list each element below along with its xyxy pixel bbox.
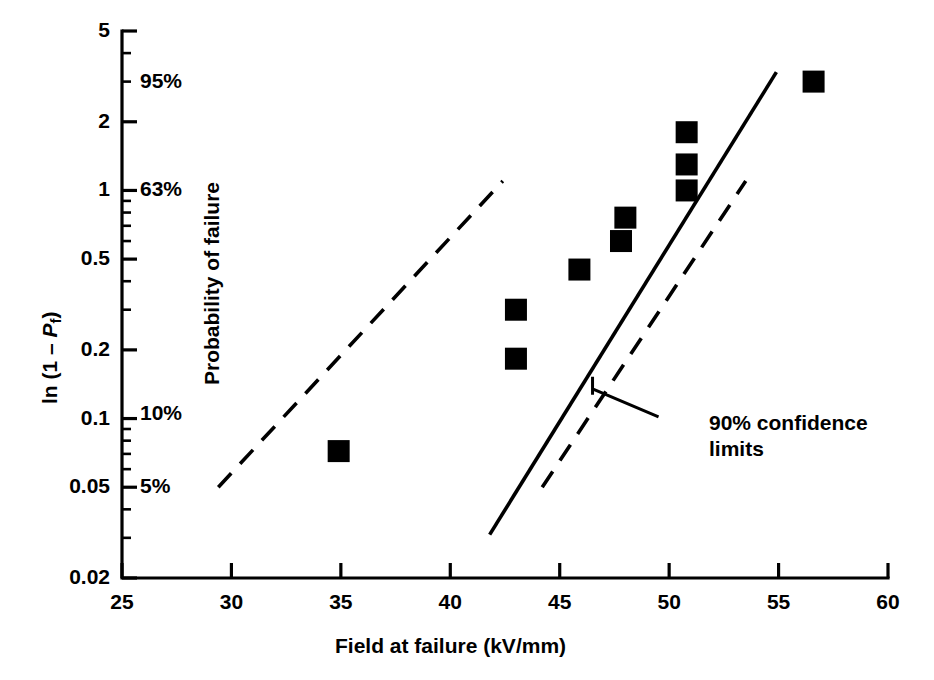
x-axis-title: Field at failure (kV/mm) [335,634,566,658]
x-axis-tick-label: 35 [306,590,376,614]
best-fit-line [490,72,777,534]
data-point-marker [610,230,632,252]
data-point-marker [505,348,527,370]
y-axis-tick-label: 0.05 [0,474,110,498]
y-axis-tick-label: 2 [0,109,110,133]
probability-percent-label: 95% [140,69,182,93]
y-axis-tick-label: 1 [0,177,110,201]
confidence-limits-line2: limits [709,436,868,462]
data-point-marker [328,440,350,462]
x-axis-tick-label: 30 [196,590,266,614]
data-point-marker [676,179,698,201]
y-axis-tick-label: 0.02 [0,565,110,589]
y-axis-title: ln (1 – Pf) [38,311,64,404]
y-axis-tick-label: 0.1 [0,406,110,430]
x-axis-tick-label: 60 [853,590,923,614]
failure-probability-chart: 0.020.050.10.20.5125 2530354045505560 95… [0,0,934,680]
x-axis-tick-label: 45 [525,590,595,614]
y-axis-tick-label: 5 [0,18,110,42]
probability-percent-label: 5% [140,474,170,498]
y-axis-title-subscript: f [47,318,64,323]
data-point-marker [568,259,590,281]
confidence-limits-annotation: 90% confidence limits [709,410,868,461]
data-point-marker [614,207,636,229]
y-axis-tick-label: 0.5 [0,246,110,270]
confidence-limit-line [218,181,503,487]
plot-canvas [0,0,934,680]
confidence-limits-line1: 90% confidence [709,410,868,436]
y-axis-title-prefix: ln (1 – [38,337,61,404]
data-point-marker [505,299,527,321]
data-point-marker [803,71,825,93]
probability-percent-label: 10% [140,401,182,425]
y-axis-title-variable: P [38,323,61,337]
x-axis-tick-label: 55 [744,590,814,614]
probability-percent-label: 63% [140,177,182,201]
x-axis-tick-label: 25 [87,590,157,614]
data-point-marker [676,153,698,175]
x-axis-tick-label: 50 [634,590,704,614]
y-axis-secondary-title: Probability of failure [200,182,224,385]
y-axis-title-suffix: ) [38,311,61,318]
data-series-group [218,71,824,535]
data-point-marker [676,121,698,143]
x-axis-tick-label: 40 [415,590,485,614]
